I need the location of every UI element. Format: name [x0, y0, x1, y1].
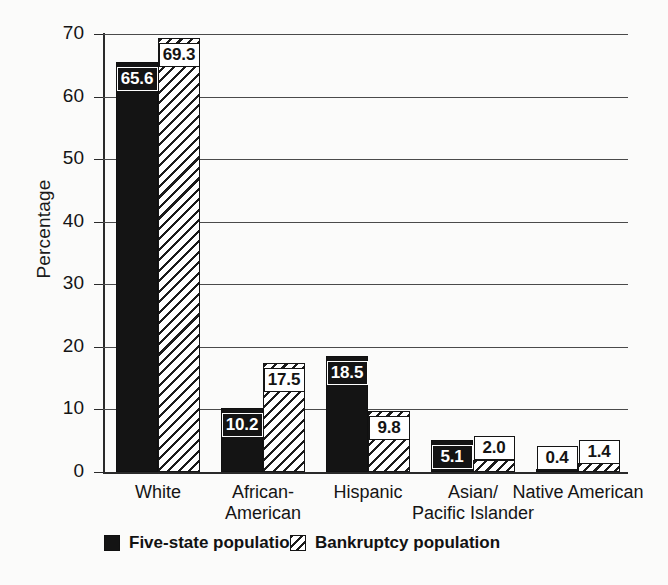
bar: [578, 463, 620, 472]
legend-entry: Bankruptcy population: [290, 532, 500, 554]
diagonal-hatch-swatch: [290, 535, 306, 551]
y-axis-tick-label: 20: [18, 335, 84, 357]
bar: [158, 38, 200, 472]
bar-value-label: 5.1: [432, 445, 473, 469]
solid-black-swatch: [104, 535, 120, 551]
y-axis-tick: [94, 472, 103, 473]
bar-value-label: 2.0: [474, 436, 515, 460]
y-axis-tick: [94, 409, 103, 410]
y-axis-tick-label: 70: [18, 22, 84, 44]
y-axis-tick-label: 30: [18, 272, 84, 294]
y-axis-tick-label: 40: [18, 210, 84, 232]
y-axis-tick: [94, 97, 103, 98]
plot-area: 65.610.218.55.10.469.317.59.82.01.4: [103, 34, 628, 472]
y-axis-tick-label: 50: [18, 147, 84, 169]
bar-value-label: 0.4: [537, 446, 578, 470]
bar-value-label: 65.6: [117, 67, 158, 91]
legend-label: Five-state population: [129, 533, 300, 553]
y-axis-tick: [94, 347, 103, 348]
bar: [116, 62, 158, 472]
bar-value-label: 18.5: [327, 361, 368, 385]
y-axis-tick: [94, 284, 103, 285]
legend-label: Bankruptcy population: [315, 533, 500, 553]
category-label-line: Pacific Islander: [383, 503, 563, 524]
bar-value-label: 1.4: [579, 440, 620, 464]
y-axis-tick: [94, 222, 103, 223]
y-axis-tick-label: 60: [18, 85, 84, 107]
legend-entry: Five-state population: [104, 532, 300, 554]
bar-value-label: 9.8: [369, 416, 410, 440]
bar-value-label: 69.3: [159, 43, 200, 67]
category-label-line: Native American: [488, 482, 668, 503]
category-label-line: American: [173, 503, 353, 524]
x-axis-category-label: Native American: [488, 482, 668, 503]
y-axis-tick-label: 0: [18, 460, 84, 482]
bar-value-label: 10.2: [222, 413, 263, 437]
bar-value-label: 17.5: [264, 368, 305, 392]
gridline: [103, 34, 628, 35]
y-axis-tick-label: 10: [18, 397, 84, 419]
y-axis-tick: [94, 34, 103, 35]
bar: [473, 460, 515, 473]
y-axis-tick: [94, 159, 103, 160]
bar-chart-figure: Percentage 010203040506070 65.610.218.55…: [0, 0, 668, 585]
x-axis-baseline: [103, 472, 628, 474]
